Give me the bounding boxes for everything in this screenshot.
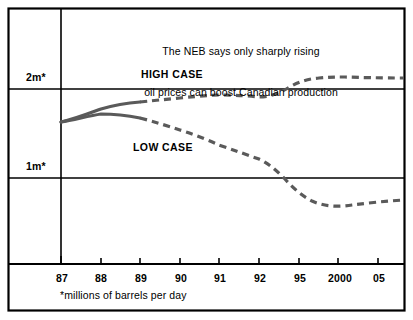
y-axis-tick-label-1m: 1m* (26, 161, 46, 172)
x-axis-tick-label-89: 89 (135, 272, 147, 284)
series-label-low-case: LOW CASE (133, 142, 193, 153)
chart-title-line-2: oil prices can boost Canadian production (126, 86, 356, 100)
chart-title-line-1: The NEB says only sharply rising (126, 45, 356, 59)
x-axis-tick-label-95: 95 (294, 272, 306, 284)
x-axis-tick-label-05: 05 (373, 272, 385, 284)
chart-figure: The NEB says only sharply rising oil pri… (0, 0, 413, 320)
x-axis-tick-label-87: 87 (56, 272, 68, 284)
series-label-high-case: HIGH CASE (141, 69, 203, 80)
y-axis-tick-label-2m: 2m* (26, 72, 46, 83)
x-axis-tick-label-2000: 2000 (328, 272, 352, 284)
chart-footnote: *millions of barrels per day (60, 290, 187, 301)
x-axis-tick-label-90: 90 (175, 272, 187, 284)
x-axis-tick-label-88: 88 (95, 272, 107, 284)
x-axis-tick-label-91: 91 (214, 272, 226, 284)
x-axis-tick-label-92: 92 (254, 272, 266, 284)
